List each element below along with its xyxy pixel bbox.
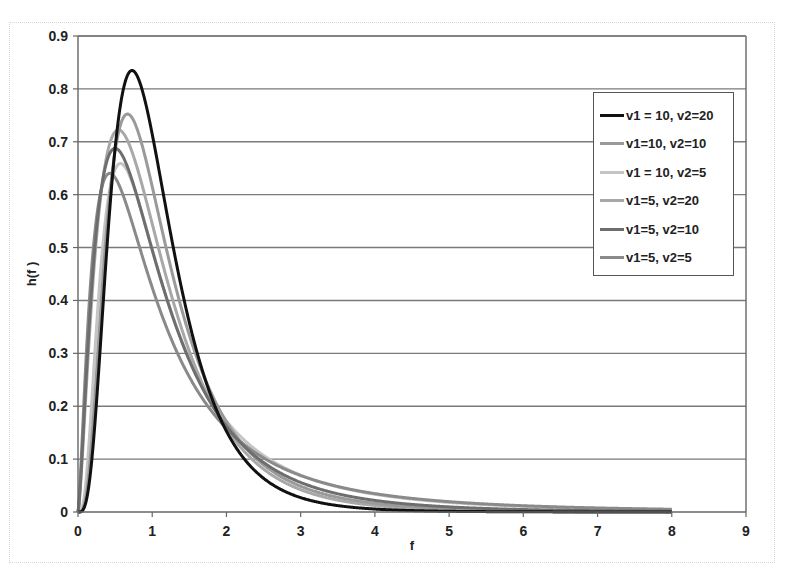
x-tick-label: 1 — [148, 523, 156, 539]
series-line — [78, 70, 672, 512]
x-tick-label: 7 — [594, 523, 602, 539]
y-tick-label: 0.1 — [49, 451, 69, 467]
x-tick-label: 5 — [445, 523, 453, 539]
series-line — [78, 173, 672, 512]
y-axis-label: h(f ) — [24, 262, 39, 287]
legend-swatch — [600, 171, 624, 174]
chart-plot: 00.10.20.30.40.50.60.70.80.90123456789 f… — [0, 0, 786, 567]
y-tick-label: 0.4 — [49, 292, 69, 308]
legend-swatch — [600, 142, 624, 145]
legend-swatch — [600, 228, 624, 231]
legend-label: v1 = 10, v2=20 — [626, 108, 713, 123]
x-tick-label: 3 — [297, 523, 305, 539]
x-tick-label: 0 — [74, 523, 82, 539]
legend-label: v1=5, v2=10 — [626, 222, 699, 237]
legend-swatch — [600, 114, 624, 117]
x-tick-label: 4 — [371, 523, 379, 539]
y-tick-label: 0.8 — [49, 81, 69, 97]
x-tick-label: 9 — [742, 523, 750, 539]
x-tick-label: 6 — [519, 523, 527, 539]
y-tick-label: 0.9 — [49, 28, 69, 44]
y-tick-label: 0.6 — [49, 187, 69, 203]
legend-item: v1=5, v2=10 — [594, 215, 733, 244]
y-tick-label: 0.3 — [49, 345, 69, 361]
legend-swatch — [600, 199, 624, 202]
data-series — [78, 70, 672, 512]
series-line — [78, 130, 672, 512]
legend-item: v1 = 10, v2=5 — [594, 158, 733, 187]
legend-item: v1=5, v2=20 — [594, 187, 733, 216]
y-tick-label: 0.5 — [49, 240, 69, 256]
y-tick-label: 0 — [60, 504, 68, 520]
x-tick-label: 2 — [223, 523, 231, 539]
x-tick-label: 8 — [668, 523, 676, 539]
series-line — [78, 114, 672, 512]
legend-label: v1=5, v2=5 — [626, 250, 692, 265]
legend-item: v1 = 10, v2=20 — [594, 101, 733, 130]
legend-swatch — [600, 256, 624, 259]
y-tick-label: 0.7 — [49, 134, 69, 150]
legend-label: v1=10, v2=10 — [626, 136, 706, 151]
legend-item: v1=10, v2=10 — [594, 130, 733, 159]
legend-label: v1=5, v2=20 — [626, 193, 699, 208]
y-tick-label: 0.2 — [49, 398, 69, 414]
legend: v1 = 10, v2=20v1=10, v2=10v1 = 10, v2=5v… — [593, 92, 734, 276]
legend-label: v1 = 10, v2=5 — [626, 165, 706, 180]
legend-item: v1=5, v2=5 — [594, 244, 733, 273]
x-axis-label: f — [410, 538, 415, 553]
